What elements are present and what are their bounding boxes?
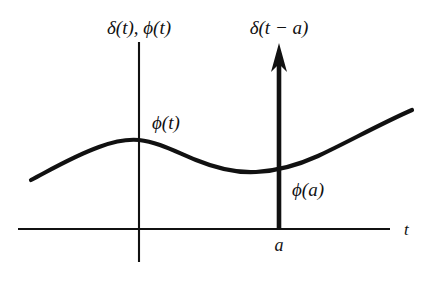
horizontal-axis-label: t <box>404 220 410 239</box>
impulse-function-label: δ(t − a) <box>250 17 309 39</box>
vertical-axis-label: δ(t), ϕ(t) <box>107 17 171 39</box>
curve-label: ϕ(t) <box>152 112 180 134</box>
phi-curve <box>31 110 412 180</box>
impulse-sampling-diagram: δ(t), ϕ(t) δ(t − a) ϕ(t) ϕ(a) a t <box>0 0 437 288</box>
x-tick-label-a: a <box>275 235 284 255</box>
figure-canvas: δ(t), ϕ(t) δ(t − a) ϕ(t) ϕ(a) a t <box>0 0 437 288</box>
impulse-weight-label: ϕ(a) <box>292 179 324 201</box>
